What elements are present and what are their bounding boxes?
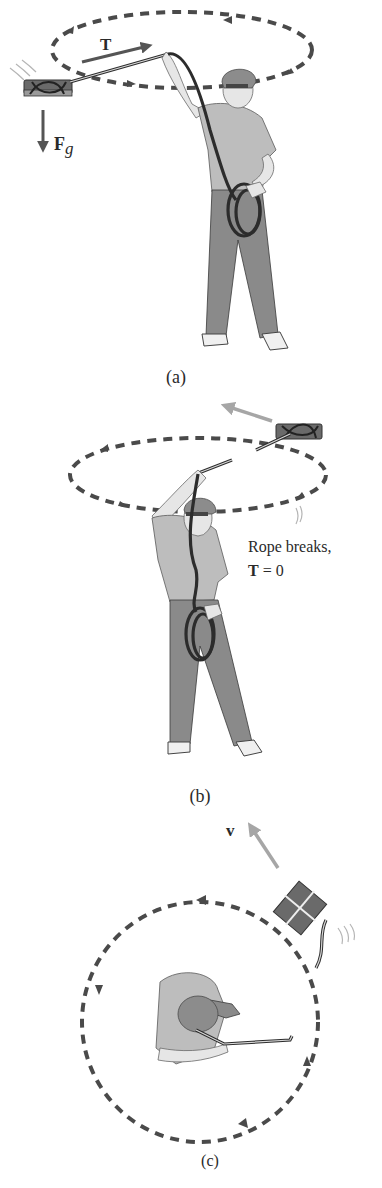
path-arrow: [95, 985, 103, 995]
person-standing: [162, 52, 288, 350]
box: [271, 878, 330, 937]
motion-lines: [338, 924, 355, 944]
velocity-vector: [251, 827, 278, 868]
tension-label: T: [100, 35, 112, 54]
motion-lines: [296, 506, 302, 524]
panel-b: Rope breaks, T = 0 (b): [70, 406, 332, 807]
path-arrow: [223, 16, 232, 24]
panel-c: v (c): [82, 821, 355, 1170]
gravity-label: Fg: [54, 134, 74, 158]
person-top-view: [156, 973, 292, 1064]
velocity-label: v: [226, 821, 235, 840]
velocity-vector: [226, 406, 272, 421]
caption-c: (c): [201, 1152, 219, 1170]
tension-zero-label: T = 0: [248, 562, 284, 579]
motion-lines: [10, 60, 36, 80]
box: [24, 80, 72, 96]
caption-a: (a): [166, 367, 186, 388]
caption-b: (b): [190, 786, 211, 807]
figure-canvas: T Fg (a): [0, 0, 382, 1188]
person-standing: [152, 460, 262, 756]
tension-vector: [82, 46, 148, 62]
path-arrow: [238, 1118, 248, 1128]
rope-breaks-label: Rope breaks,: [248, 538, 332, 556]
panel-a: T Fg (a): [10, 12, 312, 388]
